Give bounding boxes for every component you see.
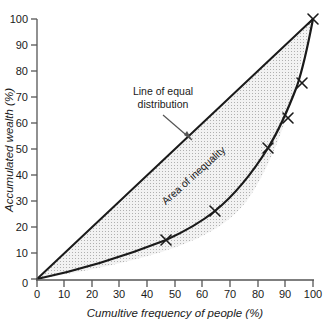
x-axis-tick-labels: 0 10 20 30 40 50 60 70 80 90 100 bbox=[34, 288, 322, 300]
y-axis-ticks bbox=[31, 19, 37, 279]
x-tick-label: 50 bbox=[169, 288, 181, 300]
x-tick-label: 80 bbox=[252, 288, 264, 300]
y-tick-label: 40 bbox=[16, 169, 28, 181]
y-axis-title: Accumulated wealth (%) bbox=[3, 88, 15, 213]
y-tick-label: 60 bbox=[16, 117, 28, 129]
x-tick-label: 20 bbox=[86, 288, 98, 300]
chart-svg: 100 90 80 70 60 50 40 30 20 10 0 bbox=[0, 0, 326, 324]
y-tick-label: 10 bbox=[16, 247, 28, 259]
equality-annotation-line1: Line of equal bbox=[133, 85, 193, 97]
y-tick-label: 80 bbox=[16, 65, 28, 77]
x-tick-label: 90 bbox=[279, 288, 291, 300]
x-axis-title: Cumultive frequency of people (%) bbox=[87, 307, 264, 319]
y-tick-label: 100 bbox=[10, 13, 28, 25]
y-tick-label: 90 bbox=[16, 39, 28, 51]
annotation-arrow bbox=[163, 115, 192, 140]
x-axis-ticks bbox=[37, 280, 313, 287]
x-axis: 0 10 20 30 40 50 60 70 80 90 100 bbox=[34, 280, 322, 300]
y-tick-label: 70 bbox=[16, 91, 28, 103]
x-tick-label: 0 bbox=[34, 288, 40, 300]
y-tick-label: 0 bbox=[22, 277, 28, 289]
x-tick-label: 30 bbox=[113, 288, 125, 300]
x-tick-label: 70 bbox=[224, 288, 236, 300]
lorenz-curve-figure: 100 90 80 70 60 50 40 30 20 10 0 bbox=[0, 0, 326, 324]
y-tick-label: 20 bbox=[16, 221, 28, 233]
x-tick-label: 10 bbox=[58, 288, 70, 300]
y-tick-label: 50 bbox=[16, 143, 28, 155]
y-tick-label: 30 bbox=[16, 195, 28, 207]
equality-line-annotation: Line of equal distribution bbox=[133, 85, 193, 140]
x-tick-label: 100 bbox=[304, 288, 322, 300]
x-tick-label: 40 bbox=[141, 288, 153, 300]
equality-annotation-line2: distribution bbox=[138, 98, 189, 110]
x-tick-label: 60 bbox=[196, 288, 208, 300]
